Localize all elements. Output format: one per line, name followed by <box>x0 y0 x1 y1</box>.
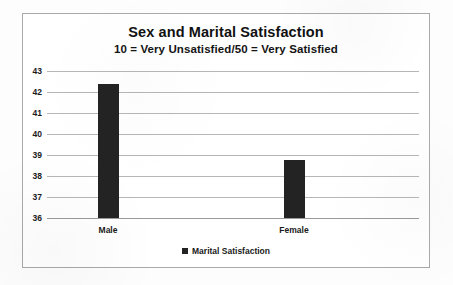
gridline <box>47 71 419 72</box>
chart-legend: Marital Satisfaction <box>23 246 429 256</box>
legend-swatch-icon <box>182 248 188 254</box>
y-axis-tick-label: 38 <box>33 171 42 181</box>
y-axis-tick-label: 36 <box>33 213 42 223</box>
chart-frame: Sex and Marital Satisfaction 10 = Very U… <box>22 13 430 268</box>
y-axis-tick-label: 41 <box>33 108 42 118</box>
x-axis-label-female: Female <box>279 225 308 235</box>
gridline <box>47 218 419 219</box>
y-axis-tick-label: 42 <box>33 87 42 97</box>
legend-label: Marital Satisfaction <box>192 246 270 256</box>
y-axis-tick-label: 39 <box>33 150 42 160</box>
y-axis-tick-label: 43 <box>33 66 42 76</box>
plot-area: 4342414039383736 MaleFemale <box>47 71 419 218</box>
chart-title: Sex and Marital Satisfaction <box>23 24 429 40</box>
chart-subtitle: 10 = Very Unsatisfied/50 = Very Satisfie… <box>23 43 429 55</box>
x-axis-label-male: Male <box>99 225 118 235</box>
bar-male <box>98 84 119 218</box>
bar-female <box>284 160 305 218</box>
y-axis-tick-label: 37 <box>33 192 42 202</box>
y-axis-tick-label: 40 <box>33 129 42 139</box>
